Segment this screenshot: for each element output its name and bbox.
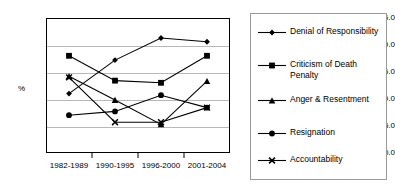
- chart-legend: Denial of ResponsibilityCriticism of Dea…: [250, 13, 387, 180]
- series-line: [69, 77, 207, 122]
- legend-entry[interactable]: Accountability: [257, 154, 386, 166]
- legend-label: Accountability: [290, 154, 386, 165]
- data-point-circle: [269, 131, 275, 137]
- data-series-layer: [46, 18, 230, 153]
- legend-label: Anger & Resentment: [290, 94, 386, 105]
- data-point-circle: [158, 92, 164, 98]
- legend-marker-cross: [257, 155, 287, 166]
- data-point-diamond: [204, 39, 210, 45]
- series-anger-resentment: [66, 73, 211, 127]
- legend-marker-diamond: [257, 27, 287, 38]
- chart-container: 0.05.010.015.020.025.0 % 1982-19891990-1…: [0, 0, 395, 193]
- legend-entry[interactable]: Denial of Responsibility: [257, 26, 386, 38]
- legend-label: Criticism of Death Penalty: [290, 59, 386, 80]
- data-point-square: [204, 53, 210, 59]
- y-axis-title: %: [18, 84, 25, 93]
- legend-entry[interactable]: Criticism of Death Penalty: [257, 59, 386, 80]
- legend-label: Denial of Responsibility: [290, 26, 386, 37]
- legend-entry[interactable]: Resignation: [257, 127, 386, 139]
- series-line: [69, 38, 207, 94]
- series-line: [69, 76, 207, 124]
- data-point-triangle: [112, 97, 119, 103]
- legend-label: Resignation: [290, 127, 386, 138]
- data-point-circle: [66, 112, 72, 118]
- x-tick-label: 2001-2004: [177, 161, 237, 170]
- data-point-circle: [112, 109, 118, 115]
- data-point-diamond: [158, 35, 164, 41]
- data-point-square: [112, 78, 118, 84]
- legend-marker-circle: [257, 128, 287, 139]
- data-point-triangle: [204, 78, 211, 84]
- data-point-square: [269, 63, 275, 69]
- legend-entry[interactable]: Anger & Resentment: [257, 94, 386, 106]
- legend-marker-square: [257, 60, 287, 71]
- data-point-square: [66, 53, 72, 59]
- series-criticism-of-death-penalty: [66, 53, 210, 86]
- x-axis-ticks: [46, 153, 230, 161]
- legend-marker-triangle: [257, 95, 287, 106]
- data-point-square: [158, 80, 164, 86]
- data-point-diamond: [269, 30, 275, 36]
